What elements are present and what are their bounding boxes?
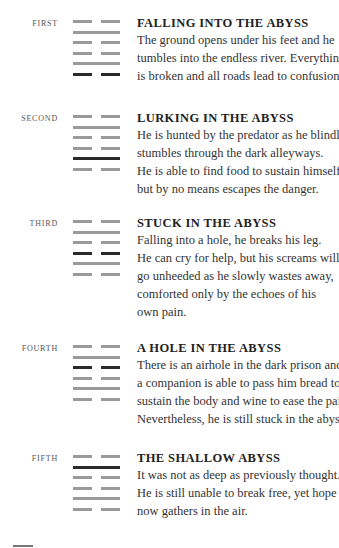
- hexagram-icon: [73, 20, 120, 83]
- broken-line: [73, 220, 120, 223]
- body-line: He can cry for help, but his screams wil…: [137, 249, 337, 267]
- entry-text: THE SHALLOW ABYSSIt was not as deep as p…: [137, 450, 337, 520]
- moving-broken-line: [73, 366, 120, 369]
- body-line: He is able to find food to sustain himse…: [137, 162, 337, 180]
- body-line: The ground opens under his feet and he: [137, 31, 337, 49]
- solid-line: [73, 31, 120, 34]
- entry-title: LURKING IN THE ABYSS: [137, 110, 337, 126]
- body-line: comforted only by the echoes of his: [137, 285, 337, 303]
- body-line: He is still unable to break free, yet ho…: [137, 484, 337, 502]
- solid-line: [73, 387, 120, 390]
- entry-body: Falling into a hole, he breaks his leg.H…: [137, 231, 337, 321]
- body-line: go unheeded as he slowly wastes away,: [137, 267, 337, 285]
- broken-line: [73, 241, 120, 244]
- entry-body: There is an airhole in the dark prison a…: [137, 356, 337, 428]
- body-line: It was not as deep as previously thought…: [137, 466, 337, 484]
- moving-solid-line: [73, 157, 120, 160]
- broken-line: [73, 136, 120, 139]
- entry-text: FALLING INTO THE ABYSSThe ground opens u…: [137, 15, 337, 85]
- body-line: Nevertheless, he is still stuck in the a…: [137, 410, 337, 428]
- line-position-label: SECOND: [0, 114, 58, 123]
- moving-broken-line: [73, 252, 120, 255]
- broken-line: [73, 345, 120, 348]
- broken-line: [73, 398, 120, 401]
- line-position-label: FIRST: [0, 19, 58, 28]
- body-line: own pain.: [137, 303, 337, 321]
- body-line: a companion is able to pass him bread to: [137, 374, 337, 392]
- body-line: now gathers in the air.: [137, 502, 337, 520]
- hexagram-icon: [73, 115, 120, 178]
- solid-line: [73, 262, 120, 265]
- body-line: Falling into a hole, he breaks his leg.: [137, 231, 337, 249]
- broken-line: [73, 52, 120, 55]
- body-line: but by no means escapes the danger.: [137, 180, 337, 198]
- line-position-label: THIRD: [0, 219, 58, 228]
- broken-line: [73, 487, 120, 490]
- entry-text: STUCK IN THE ABYSSFalling into a hole, h…: [137, 215, 337, 321]
- broken-line: [73, 455, 120, 458]
- hexagram-icon: [73, 455, 120, 518]
- broken-line: [73, 508, 120, 511]
- broken-line: [73, 476, 120, 479]
- broken-line: [73, 147, 120, 150]
- broken-line: [73, 168, 120, 171]
- body-line: sustain the body and wine to ease the pa…: [137, 392, 337, 410]
- entry-title: THE SHALLOW ABYSS: [137, 450, 337, 466]
- entry-title: A HOLE IN THE ABYSS: [137, 340, 337, 356]
- solid-line: [73, 126, 120, 129]
- body-line: There is an airhole in the dark prison a…: [137, 356, 337, 374]
- hexagram-icon: [73, 345, 120, 408]
- body-line: He is hunted by the predator as he blind…: [137, 126, 337, 144]
- moving-broken-line: [73, 73, 120, 76]
- broken-line: [73, 41, 120, 44]
- entry-title: STUCK IN THE ABYSS: [137, 215, 337, 231]
- solid-line: [73, 231, 120, 234]
- broken-line: [73, 20, 120, 23]
- broken-line: [73, 273, 120, 276]
- hexagram-icon: [73, 220, 120, 283]
- line-position-label: FOURTH: [0, 344, 58, 353]
- solid-line: [73, 62, 120, 65]
- body-line: tumbles into the endless river. Everythi…: [137, 49, 337, 67]
- broken-line: [73, 377, 120, 380]
- moving-solid-line: [73, 466, 120, 469]
- entry-title: FALLING INTO THE ABYSS: [137, 15, 337, 31]
- entry-body: It was not as deep as previously thought…: [137, 466, 337, 520]
- solid-line: [73, 497, 120, 500]
- entry-body: The ground opens under his feet and hetu…: [137, 31, 337, 85]
- entry-text: A HOLE IN THE ABYSSThere is an airhole i…: [137, 340, 337, 428]
- entry-body: He is hunted by the predator as he blind…: [137, 126, 337, 198]
- solid-line: [73, 356, 120, 359]
- line-position-label: FIFTH: [0, 454, 58, 463]
- broken-line: [73, 115, 120, 118]
- footnote-rule: [13, 545, 33, 547]
- body-line: stumbles through the dark alleyways.: [137, 144, 337, 162]
- entry-text: LURKING IN THE ABYSSHe is hunted by the …: [137, 110, 337, 198]
- body-line: is broken and all roads lead to confusio…: [137, 67, 337, 85]
